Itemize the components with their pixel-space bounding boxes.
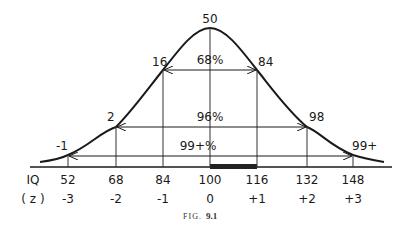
figure-caption-number: 9.1: [206, 211, 218, 221]
iq-tick: 148: [342, 173, 365, 187]
z-tick: +3: [344, 192, 362, 206]
z-tick: 0: [206, 192, 214, 206]
z-tick: +2: [298, 192, 316, 206]
iq-tick: 84: [155, 173, 170, 187]
z-tick: -3: [62, 192, 74, 206]
pct-label-mean: 50: [202, 12, 217, 26]
pct-label-m2: 2: [107, 110, 115, 124]
pct-label-p3: 99+: [352, 139, 377, 153]
iq-tick: 100: [199, 173, 222, 187]
pct-label-m1: 16: [152, 55, 167, 69]
range-label-68: 68%: [197, 53, 224, 67]
highlight-bar: [210, 164, 257, 169]
z-tick: -1: [157, 192, 169, 206]
pct-label-p1: 84: [258, 55, 273, 69]
pct-label-m3: -1: [56, 139, 68, 153]
range-label-96: 96%: [197, 110, 224, 124]
range-label-99: 99+%: [180, 139, 217, 153]
iq-row-label: IQ: [27, 173, 40, 187]
iq-tick: 132: [296, 173, 319, 187]
pct-label-p2: 98: [309, 110, 324, 124]
iq-tick: 68: [108, 173, 123, 187]
z-tick: +1: [248, 192, 266, 206]
iq-tick: 116: [246, 173, 269, 187]
z-tick: -2: [110, 192, 122, 206]
iq-tick: 52: [60, 173, 75, 187]
figure-caption-prefix: FIG.: [183, 212, 202, 221]
z-row-label: ( z ): [21, 192, 44, 206]
normal-curve-figure: 68% 96% 99+% 50 16 84 2 98 -1 99+ IQ ( z…: [0, 0, 409, 233]
